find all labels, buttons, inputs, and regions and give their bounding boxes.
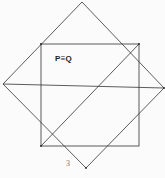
vertex-dot (40, 145, 42, 147)
geometry-figure: P≡Q 3 (0, 0, 165, 178)
horizontal-line (3, 84, 164, 88)
vertex-dot (85, 167, 87, 169)
equivalence-label: P≡Q (55, 54, 72, 63)
vertex-dot (138, 43, 140, 45)
vertex-dot (40, 43, 42, 45)
vertex-dot (163, 87, 165, 89)
figure-drawing (0, 0, 165, 178)
figure-number: 3 (66, 159, 70, 168)
